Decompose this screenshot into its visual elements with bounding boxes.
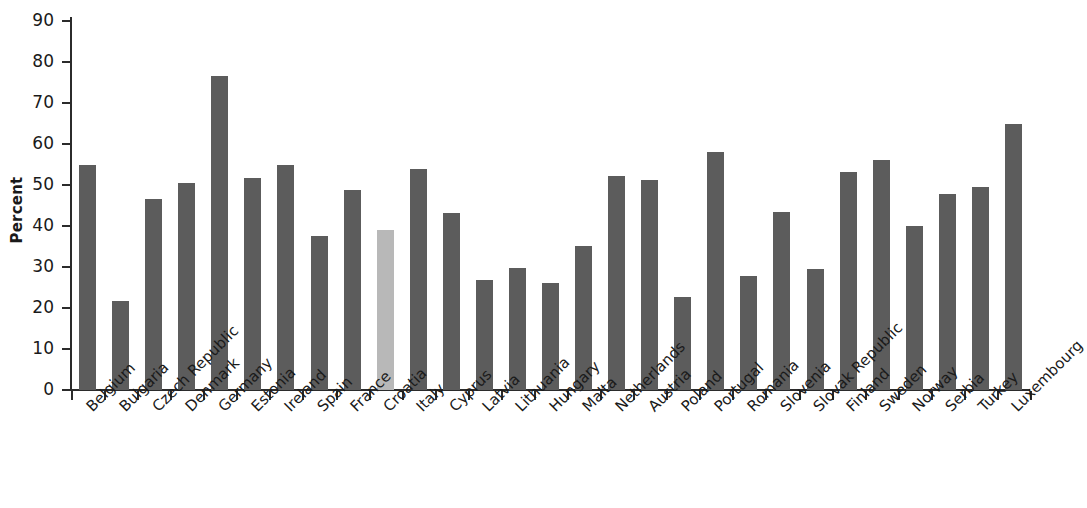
x-axis-tick bbox=[931, 391, 933, 400]
x-axis-tick bbox=[170, 391, 172, 400]
bar bbox=[410, 169, 427, 390]
y-axis-tick bbox=[62, 61, 71, 63]
x-axis-tick bbox=[832, 391, 834, 400]
y-axis-tick-label: 10 bbox=[8, 340, 54, 357]
y-axis-tick-label: 0 bbox=[8, 381, 54, 398]
bar bbox=[873, 160, 890, 390]
bar bbox=[311, 236, 328, 390]
y-axis-tick-label: 80 bbox=[8, 53, 54, 70]
bar bbox=[641, 180, 658, 390]
y-axis-tick bbox=[62, 20, 71, 22]
bar bbox=[840, 172, 857, 390]
x-axis-tick bbox=[71, 391, 73, 400]
y-axis-tick bbox=[62, 102, 71, 104]
y-axis-tick-label: 30 bbox=[8, 258, 54, 275]
y-axis-tick bbox=[62, 389, 71, 391]
bar bbox=[939, 194, 956, 390]
x-axis-tick bbox=[269, 391, 271, 400]
bar bbox=[674, 297, 691, 390]
x-axis-tick bbox=[732, 391, 734, 400]
bar bbox=[79, 165, 96, 390]
y-axis-tick-label: 60 bbox=[8, 135, 54, 152]
bar bbox=[244, 178, 261, 390]
y-axis-tick bbox=[62, 348, 71, 350]
x-axis-tick bbox=[336, 391, 338, 400]
x-axis-tick bbox=[699, 391, 701, 400]
x-axis-tick bbox=[302, 391, 304, 400]
bar bbox=[344, 190, 361, 390]
bar bbox=[807, 269, 824, 390]
bar bbox=[277, 165, 294, 390]
x-axis-tick bbox=[402, 391, 404, 400]
x-axis-tick bbox=[501, 391, 503, 400]
x-axis-tick bbox=[633, 391, 635, 400]
bar bbox=[608, 176, 625, 390]
y-axis-tick-label: 90 bbox=[8, 12, 54, 29]
bar bbox=[575, 246, 592, 390]
bar bbox=[707, 152, 724, 390]
y-axis-tick-label: 40 bbox=[8, 217, 54, 234]
y-axis-tick-label: 50 bbox=[8, 176, 54, 193]
bar bbox=[211, 76, 228, 390]
x-axis-tick bbox=[600, 391, 602, 400]
bar bbox=[1005, 124, 1022, 390]
x-axis-tick bbox=[666, 391, 668, 400]
bar bbox=[377, 230, 394, 390]
bar bbox=[145, 199, 162, 390]
bar bbox=[112, 301, 129, 390]
x-axis-tick bbox=[435, 391, 437, 400]
x-axis-tick bbox=[765, 391, 767, 400]
y-axis-tick bbox=[62, 266, 71, 268]
x-axis-tick bbox=[865, 391, 867, 400]
x-axis-tick bbox=[468, 391, 470, 400]
x-axis-tick bbox=[104, 391, 106, 400]
y-axis-title: Percent bbox=[2, 150, 32, 270]
x-axis-tick bbox=[369, 391, 371, 400]
x-axis-tick bbox=[567, 391, 569, 400]
bar bbox=[972, 187, 989, 390]
x-axis-tick bbox=[203, 391, 205, 400]
y-axis-tick bbox=[62, 307, 71, 309]
bar bbox=[509, 268, 526, 390]
y-axis-tick-label: 70 bbox=[8, 94, 54, 111]
x-axis-tick bbox=[898, 391, 900, 400]
x-axis-tick bbox=[964, 391, 966, 400]
bar bbox=[443, 213, 460, 390]
x-axis-tick bbox=[236, 391, 238, 400]
y-axis-tick bbox=[62, 143, 71, 145]
bar bbox=[906, 226, 923, 390]
x-axis-tick bbox=[997, 391, 999, 400]
bar bbox=[178, 183, 195, 390]
plot-area bbox=[71, 17, 1030, 390]
bar bbox=[773, 212, 790, 390]
bar bbox=[476, 280, 493, 390]
bar bbox=[542, 283, 559, 390]
y-axis-tick bbox=[62, 184, 71, 186]
y-axis-tick bbox=[62, 225, 71, 227]
x-axis-tick bbox=[799, 391, 801, 400]
x-axis-tick bbox=[1030, 391, 1032, 400]
x-axis-tick bbox=[137, 391, 139, 400]
x-axis-tick bbox=[534, 391, 536, 400]
y-axis-tick-label: 20 bbox=[8, 299, 54, 316]
bar bbox=[740, 276, 757, 390]
